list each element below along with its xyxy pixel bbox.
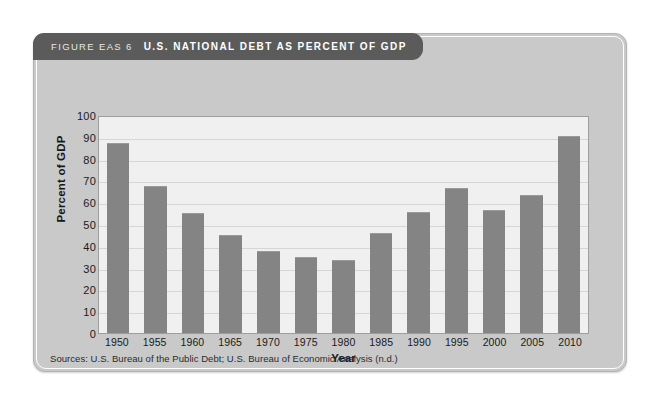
bar-slot xyxy=(249,117,287,333)
bar-slot xyxy=(475,117,513,333)
x-tick-label: 2005 xyxy=(513,336,551,348)
bar-slot xyxy=(550,117,588,333)
bar-series xyxy=(99,117,588,333)
figure-card: Percent of GDP 1009080706050403020100 19… xyxy=(33,33,627,372)
bar xyxy=(332,260,355,333)
x-tick-label: 1980 xyxy=(325,336,363,348)
bar xyxy=(445,188,468,333)
x-tick-label: 2000 xyxy=(476,336,514,348)
bar-slot xyxy=(99,117,137,333)
y-tick-label: 80 xyxy=(83,154,96,165)
bar xyxy=(370,233,393,333)
bar xyxy=(182,213,205,333)
bar xyxy=(520,195,543,333)
bar-slot xyxy=(212,117,250,333)
x-tick-label: 1990 xyxy=(400,336,438,348)
bar xyxy=(407,212,430,333)
y-axis-tick-labels: 1009080706050403020100 xyxy=(54,116,96,334)
x-tick-label: 1965 xyxy=(211,336,249,348)
y-tick-label: 10 xyxy=(83,307,96,318)
x-tick-label: 1960 xyxy=(174,336,212,348)
bar-slot xyxy=(174,117,212,333)
y-tick-label: 40 xyxy=(83,241,96,252)
bar-slot xyxy=(437,117,475,333)
bar xyxy=(144,186,167,333)
y-tick-label: 30 xyxy=(83,263,96,274)
figure-title: U.S. NATIONAL DEBT AS PERCENT OF GDP xyxy=(144,41,407,52)
y-tick-label: 90 xyxy=(83,132,96,143)
bar-slot xyxy=(137,117,175,333)
bar-slot xyxy=(325,117,363,333)
bar xyxy=(558,136,581,333)
y-tick-label: 100 xyxy=(77,111,96,122)
x-tick-label: 1950 xyxy=(98,336,136,348)
bar-slot xyxy=(287,117,325,333)
figure-number-label: FIGURE EAS 6 xyxy=(51,41,133,52)
x-tick-label: 1955 xyxy=(136,336,174,348)
y-tick-label: 60 xyxy=(83,198,96,209)
x-tick-label: 1985 xyxy=(362,336,400,348)
y-tick-label: 0 xyxy=(90,329,96,340)
plot-area xyxy=(98,116,589,334)
figure-header: FIGURE EAS 6 U.S. NATIONAL DEBT AS PERCE… xyxy=(33,33,423,60)
chart-region: Percent of GDP 1009080706050403020100 19… xyxy=(34,61,628,373)
bar xyxy=(257,251,280,333)
bar xyxy=(107,143,130,333)
bar xyxy=(295,257,318,333)
source-note: Sources: U.S. Bureau of the Public Debt;… xyxy=(50,353,398,364)
x-tick-label: 1975 xyxy=(287,336,325,348)
bar-slot xyxy=(400,117,438,333)
x-tick-label: 2010 xyxy=(551,336,589,348)
y-tick-label: 20 xyxy=(83,285,96,296)
x-axis-tick-labels: 1950195519601965197019751980198519901995… xyxy=(98,336,589,348)
y-tick-label: 70 xyxy=(83,176,96,187)
x-tick-label: 1995 xyxy=(438,336,476,348)
bar-slot xyxy=(513,117,551,333)
x-tick-label: 1970 xyxy=(249,336,287,348)
y-tick-label: 50 xyxy=(83,220,96,231)
bar xyxy=(483,210,506,333)
bar xyxy=(219,235,242,333)
bar-slot xyxy=(362,117,400,333)
